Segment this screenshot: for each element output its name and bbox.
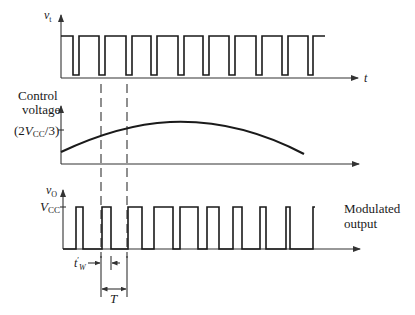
timing-annotations: t′W T — [74, 256, 127, 306]
period-label: T — [110, 291, 118, 306]
trigger-y-label: vt — [44, 8, 52, 24]
vcc-label: VCC — [40, 199, 60, 215]
control-voltage-panel: Control voltage (2VCC/3) — [14, 88, 359, 164]
two-thirds-vcc-label: (2VCC/3) — [14, 123, 59, 139]
pwm-timing-diagram: vt t Control voltage (2VCC/3) vO VCC Mod… — [0, 0, 415, 315]
control-label-line2: voltage — [22, 102, 60, 117]
control-voltage-curve — [61, 122, 304, 154]
modulated-output-label-line2: output — [344, 216, 378, 231]
control-label-line1: Control — [18, 88, 58, 103]
output-panel: vO VCC Modulated output — [40, 183, 401, 249]
modulated-output-label-line1: Modulated — [344, 201, 401, 216]
trigger-waveform — [61, 36, 325, 75]
trigger-panel: vt t — [44, 8, 368, 85]
output-y-label: vO — [46, 183, 57, 199]
pulse-width-label: t′W — [74, 256, 87, 272]
time-axis-label: t — [364, 71, 368, 85]
